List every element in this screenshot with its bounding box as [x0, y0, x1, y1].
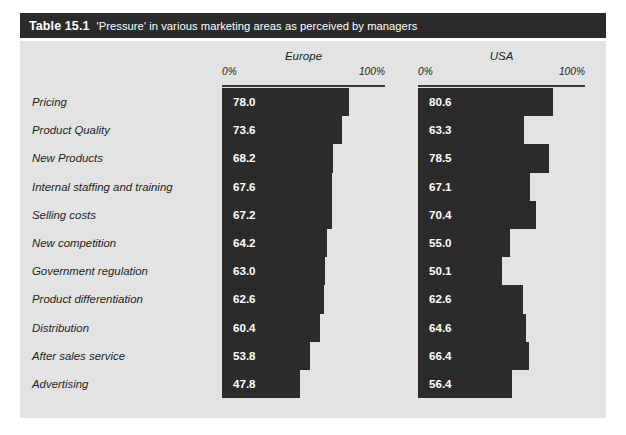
- table-row: Advertising47.856.4: [0, 370, 626, 398]
- table-row: Distribution60.464.6: [0, 314, 626, 342]
- row-label: Internal staffing and training: [32, 173, 173, 201]
- bar-value-europe: 47.8: [233, 370, 256, 398]
- row-label: Selling costs: [32, 201, 96, 229]
- bar-value-usa: 67.1: [429, 173, 452, 201]
- row-label: After sales service: [32, 342, 125, 370]
- bar-value-europe: 53.8: [233, 342, 256, 370]
- column-header-usa: USA: [418, 50, 585, 62]
- table-row: New competition64.255.0: [0, 229, 626, 257]
- table-row: New Products68.278.5: [0, 144, 626, 172]
- bar-value-usa: 62.6: [429, 285, 452, 313]
- bar-value-usa: 64.6: [429, 314, 452, 342]
- row-label: Distribution: [32, 314, 89, 342]
- bar-value-usa: 70.4: [429, 201, 452, 229]
- row-label: Government regulation: [32, 257, 148, 285]
- table-title-bar: Table 15.1 'Pressure' in various marketi…: [20, 13, 606, 38]
- table-number: Table 15.1: [29, 19, 90, 33]
- bar-value-europe: 67.2: [233, 201, 256, 229]
- axis-max-label-europe: 100%: [359, 66, 385, 79]
- row-label: Product differentiation: [32, 285, 143, 313]
- bar-value-usa: 63.3: [429, 116, 452, 144]
- axis-scale-europe: 0% 100%: [222, 66, 385, 79]
- table-row: Internal staffing and training67.667.1: [0, 173, 626, 201]
- chart-rows: Pricing78.080.6Product Quality73.663.3Ne…: [0, 88, 626, 398]
- row-label: New competition: [32, 229, 116, 257]
- table-figure: Table 15.1 'Pressure' in various marketi…: [0, 0, 626, 435]
- table-row: Product Quality73.663.3: [0, 116, 626, 144]
- table-row: Selling costs67.270.4: [0, 201, 626, 229]
- axis-rule-usa: [418, 85, 585, 87]
- axis-min-label-usa: 0%: [418, 66, 433, 79]
- table-row: After sales service53.866.4: [0, 342, 626, 370]
- row-label: Advertising: [32, 370, 88, 398]
- table-row: Product differentiation62.662.6: [0, 285, 626, 313]
- bar-value-europe: 67.6: [233, 173, 256, 201]
- axis-min-label-europe: 0%: [222, 66, 237, 79]
- table-caption: 'Pressure' in various marketing areas as…: [97, 20, 418, 32]
- bar-value-usa: 80.6: [429, 88, 452, 116]
- bar-value-europe: 78.0: [233, 88, 256, 116]
- row-label: Product Quality: [32, 116, 110, 144]
- bar-value-europe: 64.2: [233, 229, 256, 257]
- bar-value-usa: 66.4: [429, 342, 452, 370]
- table-row: Pricing78.080.6: [0, 88, 626, 116]
- bar-value-europe: 60.4: [233, 314, 256, 342]
- bar-value-europe: 68.2: [233, 144, 256, 172]
- bar-value-usa: 78.5: [429, 144, 452, 172]
- axis-rule-europe: [222, 85, 385, 87]
- bar-value-usa: 55.0: [429, 229, 452, 257]
- bar-value-europe: 73.6: [233, 116, 256, 144]
- bar-value-usa: 56.4: [429, 370, 452, 398]
- bar-value-europe: 62.6: [233, 285, 256, 313]
- axis-scale-usa: 0% 100%: [418, 66, 585, 79]
- column-header-europe: Europe: [222, 50, 385, 62]
- bar-value-usa: 50.1: [429, 257, 452, 285]
- row-label: Pricing: [32, 88, 67, 116]
- table-row: Government regulation63.050.1: [0, 257, 626, 285]
- axis-max-label-usa: 100%: [559, 66, 585, 79]
- bar-value-europe: 63.0: [233, 257, 256, 285]
- row-label: New Products: [32, 144, 103, 172]
